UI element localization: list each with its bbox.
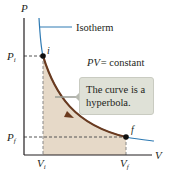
vf-label: Vf — [120, 157, 130, 171]
point-f — [123, 134, 129, 140]
hyperbola-callout: The curve is a hyperbola. — [79, 77, 154, 115]
pf-label: Pf — [6, 131, 17, 145]
point-i — [40, 53, 46, 59]
callout-line-1: The curve is a — [86, 83, 147, 96]
point-f-label: f — [131, 124, 135, 135]
y-axis-label: P — [20, 2, 28, 14]
equation-label: PV= constant — [86, 57, 144, 68]
vi-label: Vi — [37, 157, 46, 171]
isotherm-label: Isotherm — [76, 22, 113, 33]
x-axis-label: V — [155, 149, 163, 161]
point-i-label: i — [47, 45, 50, 56]
callout-line-2: hyperbola. — [86, 96, 147, 109]
pi-label: Pi — [6, 50, 16, 64]
